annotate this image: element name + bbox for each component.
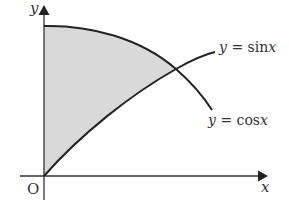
x-axis-label: x xyxy=(261,180,269,195)
sin-curve-label: y = sinx xyxy=(219,40,276,54)
diagram: y x O y = sinx y = cosx xyxy=(0,0,289,223)
y-axis-arrow-icon xyxy=(39,5,50,15)
origin-label: O xyxy=(27,182,39,197)
cos-curve-label: y = cosx xyxy=(208,113,268,127)
y-axis-label: y xyxy=(30,1,38,16)
